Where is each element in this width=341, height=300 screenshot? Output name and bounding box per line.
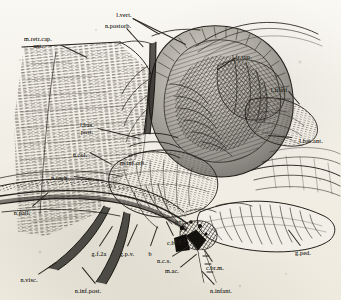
label-c-br-m: c.br.m. <box>206 265 224 272</box>
label-b: b <box>148 251 151 258</box>
label-n-c-s: n.c.s. <box>157 258 171 265</box>
ganglion-cluster <box>174 220 217 282</box>
label-l-vert: l.vert. <box>116 12 131 19</box>
label-n-pall: n.pall. <box>14 210 31 217</box>
label-n-visc: n.visc. <box>20 277 37 284</box>
label-m-inf-orb: m.inf.orb. <box>120 160 146 167</box>
label-c-br-v: c.br.v. <box>167 240 183 247</box>
label-n-rach: n.rach. <box>51 175 69 182</box>
label-m-ac: m.ac. <box>165 268 179 275</box>
label-l-fr-inf: l.fr.inf. <box>271 87 289 94</box>
label-g-p-v: g.p.v. <box>120 251 134 258</box>
label-l-fr-sup: l.fr.sup. <box>232 54 252 61</box>
label-n-col: n.col. <box>73 152 88 159</box>
label-l-bas-post: l.bas. post. <box>80 122 94 135</box>
label-p-plus-c: p+c <box>175 219 185 226</box>
label-n-infant: n.infant. <box>210 288 232 295</box>
label-n-inf-post: n.inf.post. <box>75 288 102 295</box>
label-g-ped: g.ped. <box>295 250 311 257</box>
anatomical-plate: m.retr.cap. ant.n.postorb.l.vert.l.fr.su… <box>0 0 341 300</box>
label-n-postorb: n.postorb. <box>105 23 131 30</box>
label-l-bas-ant: l.bas.ant. <box>299 138 323 145</box>
label-m-retr-cap-ant: m.retr.cap. ant. <box>24 36 52 49</box>
label-g-f-2a: g.f.2a <box>92 251 107 258</box>
